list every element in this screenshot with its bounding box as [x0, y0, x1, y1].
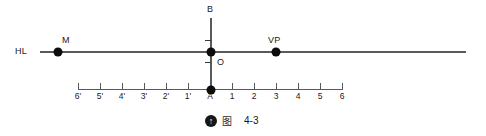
ground-axis-tick — [78, 83, 79, 89]
ground-axis-tick — [298, 83, 299, 89]
point-dot-a — [207, 86, 216, 95]
figure-caption: ↑ 图 4-3 — [205, 113, 258, 128]
ground-axis-tick-label: 4 — [296, 92, 301, 101]
horizon-line — [40, 51, 466, 53]
ground-axis-tick — [100, 83, 101, 89]
horizon-line-label: HL — [15, 46, 27, 56]
point-dot-m — [54, 48, 63, 57]
ground-axis-tick-label: 4' — [119, 92, 125, 101]
ground-axis-tick — [122, 83, 123, 89]
ground-axis-tick — [188, 83, 189, 89]
ground-axis-tick-label: 5' — [97, 92, 103, 101]
ground-axis-tick — [166, 83, 167, 89]
ground-axis-tick-label: 5 — [318, 92, 323, 101]
point-dot-o — [207, 48, 216, 57]
ground-axis-tick-label: 6 — [340, 92, 345, 101]
point-dot-vp — [272, 48, 281, 57]
ground-axis-tick — [254, 83, 255, 89]
ground-axis-tick — [232, 83, 233, 89]
vertical-tick-lower — [205, 62, 211, 63]
point-label-b: B — [207, 4, 213, 14]
vertical-tick-upper — [205, 40, 211, 41]
point-label-o: O — [217, 57, 224, 67]
point-label-vp: VP — [268, 35, 280, 45]
caption-cjk-character: 图 — [222, 113, 232, 128]
ground-axis-tick — [276, 83, 277, 89]
ground-axis-tick-label: 2' — [163, 92, 169, 101]
figure-canvas: HL 6'5'4'3'2'1'A123456 M VP B O ↑ 图 4-3 — [0, 0, 486, 136]
ground-axis-tick — [320, 83, 321, 89]
ground-axis-tick-label: 6' — [75, 92, 81, 101]
ground-axis-tick-label: 1 — [230, 92, 235, 101]
ground-axis-tick-label: 1' — [185, 92, 191, 101]
circled-up-arrow-icon: ↑ — [205, 115, 217, 127]
caption-figure-number: 4-3 — [244, 115, 258, 126]
ground-axis-tick — [342, 83, 343, 89]
ground-axis-tick-label: 2 — [252, 92, 257, 101]
ground-axis-tick — [144, 83, 145, 89]
ground-axis-tick-label: 3' — [141, 92, 147, 101]
point-label-m: M — [62, 35, 70, 45]
ground-axis-tick-label: 3 — [274, 92, 279, 101]
